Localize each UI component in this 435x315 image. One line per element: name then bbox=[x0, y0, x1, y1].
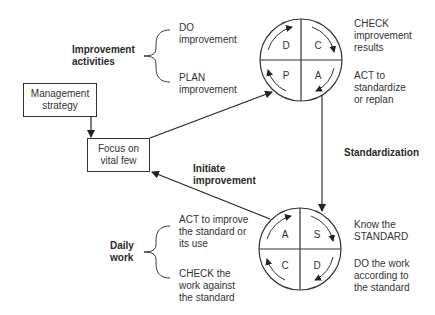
sdca-circle bbox=[259, 208, 341, 290]
text-line: results bbox=[354, 42, 412, 54]
pdca-quadrant-check: C bbox=[311, 40, 325, 52]
management-strategy-box: Management strategy bbox=[23, 83, 97, 117]
sdca-quadrant-do: D bbox=[310, 260, 324, 272]
text-line: Focus on bbox=[98, 143, 139, 155]
sdca-quadrant-act: A bbox=[278, 229, 292, 241]
text-line: DO the work bbox=[354, 258, 410, 270]
text-line: standardize bbox=[354, 82, 406, 94]
label-line: Initiate bbox=[193, 163, 256, 175]
act-standardize-text: ACT to standardize or replan bbox=[354, 70, 406, 106]
sdca-quadrant-standardize: S bbox=[310, 229, 324, 241]
focus-vital-few-box: Focus on vital few bbox=[87, 138, 150, 172]
act-improve-standard-text: ACT to improve the standard or its use bbox=[179, 214, 248, 250]
sdca-quadrant-check: C bbox=[278, 260, 292, 272]
brace-improvement bbox=[144, 30, 170, 82]
text-line: ACT to bbox=[354, 70, 406, 82]
arrow-focus-to-pdca bbox=[150, 92, 272, 138]
text-line: its use bbox=[179, 238, 248, 250]
text-line: STANDARD bbox=[354, 231, 408, 243]
brace-daily-work bbox=[144, 226, 170, 278]
text-line: PLAN bbox=[179, 72, 237, 84]
improvement-activities-label: Improvement activities bbox=[72, 44, 135, 68]
do-work-standard-text: DO the work according to the standard bbox=[354, 258, 410, 294]
text-line: the standard bbox=[179, 292, 235, 304]
text-line: Management bbox=[31, 88, 89, 100]
text-line: improvement bbox=[179, 84, 237, 96]
text-line: ACT to improve bbox=[179, 214, 248, 226]
label-line: activities bbox=[72, 56, 135, 68]
text-line: or replan bbox=[354, 94, 406, 106]
plan-improvement-text: PLAN improvement bbox=[179, 72, 237, 96]
pdca-quadrant-plan: P bbox=[279, 70, 293, 82]
pdca-quadrant-do: D bbox=[279, 40, 293, 52]
pdca-circle bbox=[260, 19, 342, 101]
text-line: CHECK the bbox=[179, 268, 235, 280]
text-line: strategy bbox=[42, 100, 78, 112]
text-line: according to bbox=[354, 270, 410, 282]
check-improvement-results-text: CHECK improvement results bbox=[354, 18, 412, 54]
label-line: Improvement bbox=[72, 44, 135, 56]
text-line: CHECK bbox=[354, 18, 412, 30]
know-standard-text: Know the STANDARD bbox=[354, 219, 408, 243]
text-line: Know the bbox=[354, 219, 408, 231]
initiate-improvement-label: Initiate improvement bbox=[193, 163, 256, 187]
check-work-standard-text: CHECK the work against the standard bbox=[179, 268, 235, 304]
text-line: the standard or bbox=[179, 226, 248, 238]
label-line: work bbox=[110, 252, 134, 264]
label-line: Daily bbox=[110, 240, 134, 252]
text-line: improvement bbox=[179, 34, 237, 46]
text-line: improvement bbox=[354, 30, 412, 42]
label-line: improvement bbox=[193, 175, 256, 187]
text-line: work against bbox=[179, 280, 235, 292]
text-line: DO bbox=[179, 22, 237, 34]
pdca-quadrant-act: A bbox=[311, 70, 325, 82]
text-line: vital few bbox=[100, 155, 136, 167]
daily-work-label: Daily work bbox=[110, 240, 134, 264]
text-line: the standard bbox=[354, 282, 410, 294]
standardization-label: Standardization bbox=[344, 147, 419, 159]
do-improvement-text: DO improvement bbox=[179, 22, 237, 46]
